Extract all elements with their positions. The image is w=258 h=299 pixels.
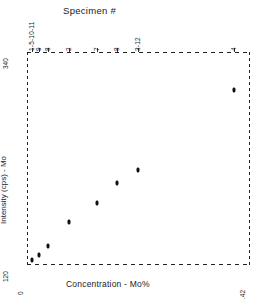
- specimen-tick-label: 4: [230, 47, 237, 51]
- specimen-tick-label: 3-12: [134, 37, 141, 51]
- data-point: [31, 258, 34, 263]
- axis-right: [249, 52, 250, 265]
- specimen-tick-label: 2: [65, 47, 72, 51]
- x-axis-title: Concentration - Mo%: [66, 279, 150, 289]
- specimen-tick-label: 7: [93, 47, 100, 51]
- data-point: [232, 87, 235, 92]
- data-point: [37, 253, 40, 258]
- data-point: [116, 181, 119, 186]
- axis-left: [27, 52, 28, 265]
- axis-bottom: [27, 264, 250, 265]
- data-point: [47, 243, 50, 248]
- x-axis-min-label: 0: [17, 291, 24, 295]
- data-point: [96, 201, 99, 206]
- data-point: [137, 167, 140, 172]
- x-axis-max-label: .42: [239, 290, 246, 299]
- y-axis-title: Intensity (cps) - Mo: [0, 156, 8, 224]
- data-point: [67, 219, 70, 224]
- specimen-tick-label: 8: [44, 47, 51, 51]
- y-axis-max-label: 340: [2, 58, 9, 69]
- specimen-tick-label: 9: [35, 47, 42, 51]
- y-axis-min-label: 120: [2, 271, 9, 282]
- top-axis-title: Specimen #: [63, 5, 116, 16]
- axis-top: [27, 52, 250, 53]
- specimen-tick-label: 8: [113, 47, 120, 51]
